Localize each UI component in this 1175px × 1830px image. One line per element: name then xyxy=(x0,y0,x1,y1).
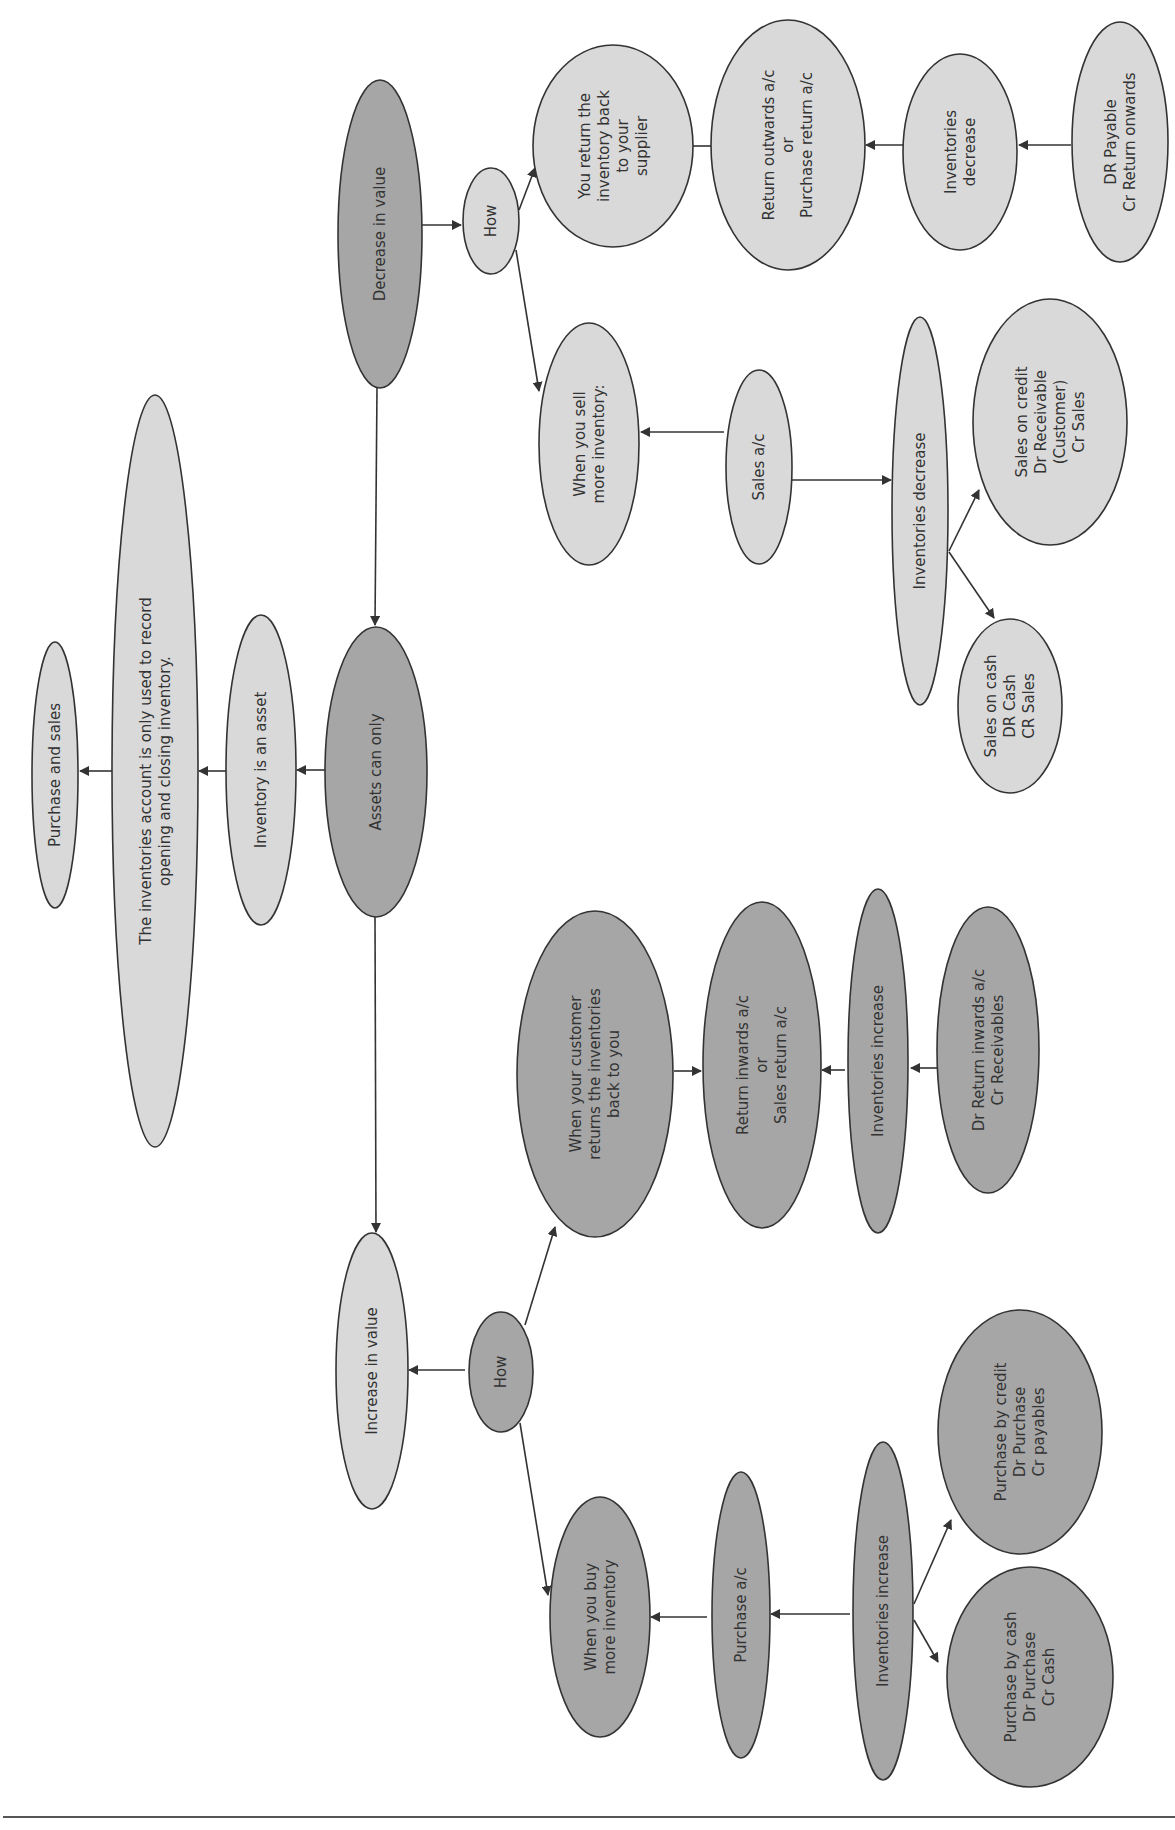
node-label-line: inventory back xyxy=(595,90,613,202)
node-increase-in-value: Increase in value xyxy=(336,1233,408,1509)
node-label-line: back to you xyxy=(605,1030,623,1118)
node-inventories-decrease-sales: Inventories decrease xyxy=(892,317,948,705)
arrow-inventories-increase-purchase-to-purchase-by-cash xyxy=(914,1620,938,1662)
node-label-line: The inventories account is only used to … xyxy=(137,597,155,946)
node-purchase-by-cash: Purchase by cashDr PurchaseCr Cash xyxy=(947,1567,1113,1787)
node-label-line: How xyxy=(492,1356,510,1389)
node-label-line: You return the xyxy=(576,93,594,200)
node-label: Inventories decrease xyxy=(911,432,929,589)
node-when-you-buy: When you buymore inventory xyxy=(550,1497,650,1737)
node-label-line: returns the inventories xyxy=(586,988,604,1160)
node-label-line: Decrease in value xyxy=(371,167,389,302)
node-assets-can-only: Assets can only xyxy=(325,627,427,917)
node-label-line: opening and closing inventory. xyxy=(156,656,174,886)
node-how-increase: How xyxy=(469,1312,533,1432)
node-label-line: Sales return a/c xyxy=(772,1006,790,1124)
node-label: When you buymore inventory xyxy=(582,1559,619,1674)
node-dr-payable: DR PayableCr Return onwards xyxy=(1072,22,1168,262)
arrow-how-decrease-to-when-you-sell xyxy=(516,250,539,391)
node-label: How xyxy=(492,1356,510,1389)
node-sales-ac: Sales a/c xyxy=(726,370,792,564)
node-label-line: Dr Purchase xyxy=(1021,1632,1039,1723)
node-label: Inventories increase xyxy=(869,985,887,1137)
node-label: Assets can only xyxy=(367,713,385,830)
node-when-customer-returns: When your customerreturns the inventorie… xyxy=(517,911,673,1237)
node-sales-on-cash: Sales on cashDR CashCR Sales xyxy=(958,619,1062,793)
node-label: Decrease in value xyxy=(371,167,389,302)
node-label-line: Purchase by cash xyxy=(1002,1612,1020,1743)
node-label-line: Dr Receivable xyxy=(1032,370,1050,474)
node-label-line: or xyxy=(753,1057,771,1073)
arrow-how-increase-to-when-customer-returns xyxy=(525,1227,555,1325)
node-label-line: Return outwards a/c xyxy=(760,69,778,220)
node-label-line: Cr Receivables xyxy=(989,994,1007,1105)
node-inventories-note: The inventories account is only used to … xyxy=(112,395,198,1147)
arrow-inventories-decrease-sales-to-sales-on-cash xyxy=(949,552,994,618)
node-label: Inventories increase xyxy=(874,1535,892,1687)
node-label-line: Inventories increase xyxy=(869,985,887,1137)
node-label-line: Inventories xyxy=(942,110,960,194)
node-label-line: DR Payable xyxy=(1102,99,1120,184)
node-label: Purchase a/c xyxy=(732,1567,750,1662)
node-inventories-decrease-return: Inventoriesdecrease xyxy=(903,54,1017,250)
node-label-line: Inventory is an asset xyxy=(252,692,270,849)
arrow-inventories-increase-purchase-to-purchase-by-credit xyxy=(914,1520,951,1604)
node-label: Purchase and sales xyxy=(46,703,64,847)
node-label-line: Purchase return a/c xyxy=(798,72,816,218)
node-decrease-in-value: Decrease in value xyxy=(338,80,422,388)
node-inventory-is-asset: Inventory is an asset xyxy=(226,615,296,925)
node-label-line: Return inwards a/c xyxy=(734,995,752,1135)
node-label: When you sellmore inventory: xyxy=(571,385,608,504)
node-purchase-ac: Purchase a/c xyxy=(712,1472,770,1758)
node-label-line: CR Sales xyxy=(1020,673,1038,739)
node-label-line: to your xyxy=(614,118,632,172)
node-label-line: Increase in value xyxy=(363,1307,381,1435)
node-inventories-increase-return: Inventories increase xyxy=(848,889,908,1233)
node-label-line: Dr Purchase xyxy=(1011,1387,1029,1478)
node-label-line: Sales on credit xyxy=(1013,366,1031,477)
node-label-line: When you buy xyxy=(582,1563,600,1671)
node-label-line: Purchase by credit xyxy=(992,1362,1010,1501)
node-return-outwards: Return outwards a/corPurchase return a/c xyxy=(711,20,865,270)
node-label-line: Sales a/c xyxy=(750,433,768,500)
arrow-decrease-in-value-to-assets-can-only xyxy=(375,388,377,625)
node-dr-return-inwards: Dr Return inwards a/cCr Receivables xyxy=(937,907,1039,1193)
node-label-line: Cr Sales xyxy=(1070,391,1088,453)
node-label-line: Sales on cash xyxy=(982,655,1000,758)
node-label-line: supplier xyxy=(633,115,651,176)
node-label-line: When you sell xyxy=(571,391,589,497)
node-label-line: Assets can only xyxy=(367,713,385,830)
node-label: Sales a/c xyxy=(750,433,768,500)
node-label-line: How xyxy=(482,205,500,238)
node-label-line: When your customer xyxy=(567,995,585,1153)
nodes-layer: Purchase and salesThe inventories accoun… xyxy=(32,20,1168,1787)
node-label-line: Inventories increase xyxy=(874,1535,892,1687)
node-label-line: Dr Return inwards a/c xyxy=(970,969,988,1132)
arrow-inventories-decrease-sales-to-sales-on-credit xyxy=(949,490,979,551)
inventory-concept-map: Purchase and salesThe inventories accoun… xyxy=(0,0,1175,1830)
node-label-line: Cr Return onwards xyxy=(1121,72,1139,212)
node-label-line: DR Cash xyxy=(1001,674,1019,738)
node-label-line: more inventory xyxy=(601,1559,619,1674)
arrow-assets-can-only-to-increase-in-value xyxy=(375,917,376,1232)
node-label: Inventoriesdecrease xyxy=(942,110,979,194)
arrow-how-increase-to-when-you-buy xyxy=(520,1423,548,1595)
node-sales-on-credit: Sales on creditDr Receivable(Customer)Cr… xyxy=(973,299,1127,545)
node-label-line: (Customer) xyxy=(1051,380,1069,465)
node-label: How xyxy=(482,205,500,238)
node-label-line: decrease xyxy=(961,118,979,186)
node-label: Inventory is an asset xyxy=(252,692,270,849)
node-label: Increase in value xyxy=(363,1307,381,1435)
node-how-decrease: How xyxy=(463,168,519,274)
node-label-line: Inventories decrease xyxy=(911,432,929,589)
node-purchase-and-sales: Purchase and sales xyxy=(32,642,78,908)
node-label-line: Cr Cash xyxy=(1040,1648,1058,1706)
node-label-line: more inventory: xyxy=(590,385,608,504)
node-label-line: Purchase and sales xyxy=(46,703,64,847)
arrow-how-decrease-to-you-return-inventory xyxy=(519,168,535,210)
node-when-you-sell: When you sellmore inventory: xyxy=(539,323,639,565)
node-return-inwards: Return inwards a/corSales return a/c xyxy=(703,902,821,1228)
node-you-return-inventory: You return theinventory backto yoursuppl… xyxy=(533,45,693,247)
node-label-line: or xyxy=(779,137,797,153)
node-label-line: Cr payables xyxy=(1030,1387,1048,1476)
